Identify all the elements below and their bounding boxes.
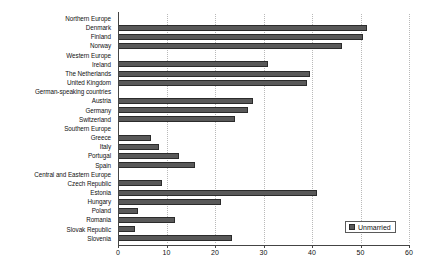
x-tick-label: 10 — [163, 249, 171, 256]
legend-swatch-unmarried — [349, 224, 355, 230]
category-label: Greece — [0, 133, 114, 142]
x-tick-mark — [264, 245, 265, 248]
bar-row — [118, 170, 409, 179]
bar-row — [118, 115, 409, 124]
bar-switzerland[interactable] — [118, 116, 235, 122]
x-tick-label: 0 — [116, 249, 120, 256]
group-header-label: Western Europe — [0, 51, 114, 60]
gridline — [409, 14, 410, 243]
bar-the-netherlands[interactable] — [118, 71, 310, 77]
category-label: The Netherlands — [0, 69, 114, 78]
bar-row — [118, 51, 409, 60]
bar-row — [118, 14, 409, 23]
bar-czech-republic[interactable] — [118, 180, 162, 186]
category-label: Portugal — [0, 151, 114, 160]
category-axis-labels: Northern EuropeDenmarkFinlandNorwayWeste… — [0, 14, 114, 243]
category-label: Poland — [0, 206, 114, 215]
group-header-label: German-speaking countries — [0, 87, 114, 96]
plot-area — [118, 14, 409, 243]
bar-row — [118, 206, 409, 215]
chart-legend[interactable]: Unmarried — [345, 221, 396, 233]
category-label: Slovak Republic — [0, 225, 114, 234]
legend-label-unmarried: Unmarried — [358, 224, 391, 231]
category-label: United Kingdom — [0, 78, 114, 87]
bar-row — [118, 41, 409, 50]
bar-austria[interactable] — [118, 98, 253, 104]
bar-norway[interactable] — [118, 43, 342, 49]
category-label: Italy — [0, 142, 114, 151]
group-header-label: Northern Europe — [0, 14, 114, 23]
x-tick-label: 20 — [211, 249, 219, 256]
bar-estonia[interactable] — [118, 190, 317, 196]
bars-layer — [118, 14, 409, 243]
bar-chart: Northern EuropeDenmarkFinlandNorwayWeste… — [0, 0, 428, 270]
x-tick-mark — [312, 245, 313, 248]
bar-hungary[interactable] — [118, 199, 221, 205]
x-tick-mark — [167, 245, 168, 248]
bar-row — [118, 161, 409, 170]
bar-romania[interactable] — [118, 217, 175, 223]
bar-row — [118, 188, 409, 197]
group-header-label: Southern Europe — [0, 124, 114, 133]
x-tick-label: 60 — [405, 249, 413, 256]
bar-row — [118, 23, 409, 32]
category-label: Norway — [0, 41, 114, 50]
category-label: Germany — [0, 106, 114, 115]
category-label: Switzerland — [0, 115, 114, 124]
bar-row — [118, 179, 409, 188]
bar-row — [118, 60, 409, 69]
bar-ireland[interactable] — [118, 61, 268, 67]
bar-slovenia[interactable] — [118, 235, 232, 241]
bar-row — [118, 124, 409, 133]
x-tick-mark — [118, 245, 119, 248]
bar-row — [118, 69, 409, 78]
bar-row — [118, 96, 409, 105]
category-label: Romania — [0, 215, 114, 224]
category-label: Ireland — [0, 60, 114, 69]
bar-united-kingdom[interactable] — [118, 80, 307, 86]
bar-row — [118, 78, 409, 87]
bar-row — [118, 234, 409, 243]
bar-portugal[interactable] — [118, 153, 179, 159]
category-label: Hungary — [0, 197, 114, 206]
bar-row — [118, 32, 409, 41]
bar-greece[interactable] — [118, 135, 151, 141]
category-label: Czech Republic — [0, 179, 114, 188]
x-tick-mark — [215, 245, 216, 248]
bar-slovak-republic[interactable] — [118, 226, 135, 232]
x-tick-mark — [361, 245, 362, 248]
bar-germany[interactable] — [118, 107, 248, 113]
category-label: Spain — [0, 161, 114, 170]
bar-spain[interactable] — [118, 162, 195, 168]
x-tick-mark — [409, 245, 410, 248]
x-tick-label: 50 — [357, 249, 365, 256]
bar-row — [118, 197, 409, 206]
bar-italy[interactable] — [118, 144, 159, 150]
bar-denmark[interactable] — [118, 25, 367, 31]
group-header-label: Central and Eastern Europe — [0, 170, 114, 179]
bar-finland[interactable] — [118, 34, 363, 40]
category-label: Estonia — [0, 188, 114, 197]
bar-row — [118, 87, 409, 96]
bar-poland[interactable] — [118, 208, 138, 214]
bar-row — [118, 151, 409, 160]
x-tick-label: 30 — [260, 249, 268, 256]
y-axis-line — [118, 12, 119, 245]
category-label: Slovenia — [0, 234, 114, 243]
bar-row — [118, 106, 409, 115]
x-axis-ticks: 0102030405060 — [118, 245, 409, 265]
category-label: Austria — [0, 96, 114, 105]
bar-row — [118, 142, 409, 151]
category-label: Denmark — [0, 23, 114, 32]
x-tick-label: 40 — [308, 249, 316, 256]
bar-row — [118, 133, 409, 142]
category-label: Finland — [0, 32, 114, 41]
